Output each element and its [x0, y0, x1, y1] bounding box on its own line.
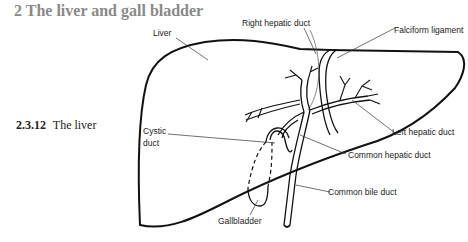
label-falciform-ligament: Falciform ligament — [394, 25, 464, 35]
gallbladder-shape — [248, 142, 266, 188]
label-cystic-duct-2: duct — [143, 138, 160, 148]
liver-diagram: Liver Right hepatic duct Falciform ligam… — [0, 0, 468, 242]
label-cystic-duct: Cystic — [143, 126, 167, 136]
label-left-hepatic-duct: Left hepatic duct — [392, 127, 455, 137]
label-gallbladder: Gallbladder — [218, 216, 262, 226]
label-right-hepatic-duct: Right hepatic duct — [242, 18, 311, 28]
label-common-bile-duct: Common bile duct — [328, 187, 397, 197]
label-liver: Liver — [153, 28, 172, 38]
label-common-hepatic-duct: Common hepatic duct — [348, 150, 431, 160]
